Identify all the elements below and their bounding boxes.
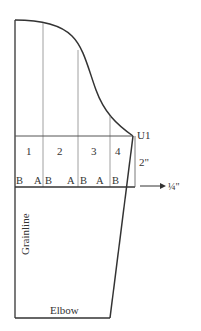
band-label: B (80, 175, 87, 186)
grainline-label: Grainline (19, 213, 31, 255)
point-label-u1: U1 (137, 129, 150, 141)
measure-label-quarter: ¼" (168, 181, 180, 192)
band-label: B (112, 175, 119, 186)
section-label-1: 1 (26, 145, 32, 157)
band-label: A (34, 175, 42, 186)
arrow-head-icon (160, 183, 166, 189)
band-label: A (67, 175, 75, 186)
section-label-4: 4 (115, 145, 121, 157)
section-label-3: 3 (91, 145, 97, 157)
band-label: B (16, 175, 23, 186)
band-label: B (45, 175, 52, 186)
band-label: A (96, 175, 104, 186)
sleeve-pattern-diagram: 1 2 3 4 B A B A B A B U1 2" ¼" Grainline… (0, 0, 201, 331)
pattern-svg: 1 2 3 4 B A B A B A B U1 2" ¼" Grainline… (0, 0, 201, 331)
elbow-label: Elbow (50, 304, 79, 316)
underarm-seam (110, 136, 133, 318)
sleeve-cap-curve (15, 20, 133, 136)
measure-label-2in: 2" (139, 156, 149, 168)
section-label-2: 2 (57, 145, 63, 157)
